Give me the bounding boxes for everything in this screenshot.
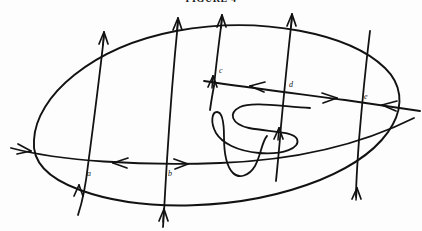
curve-b xyxy=(163,22,178,227)
label-e: e xyxy=(364,92,368,101)
arrowhead-e-bottom xyxy=(352,188,361,200)
spiral-squiggle xyxy=(212,104,310,176)
curve-c xyxy=(210,19,222,110)
label-a: a xyxy=(87,169,91,178)
arrowhead-b-top xyxy=(173,18,182,31)
curve-e xyxy=(356,31,370,197)
arrow-upper-left xyxy=(250,82,265,92)
outer-loop xyxy=(34,25,400,205)
figure-container: FIGURE 4 xyxy=(0,0,422,231)
label-b: b xyxy=(168,169,172,178)
arrowhead-d-bottom xyxy=(274,128,283,140)
arrowhead-d-top xyxy=(287,14,296,27)
arrowhead-a-bottom xyxy=(74,185,83,196)
label-d: d xyxy=(289,80,294,89)
arrowhead-a-top xyxy=(99,32,108,45)
figure-drawing: a b c d e xyxy=(0,0,422,231)
arrowhead-b-bottom xyxy=(159,209,168,222)
label-c: c xyxy=(219,66,223,75)
